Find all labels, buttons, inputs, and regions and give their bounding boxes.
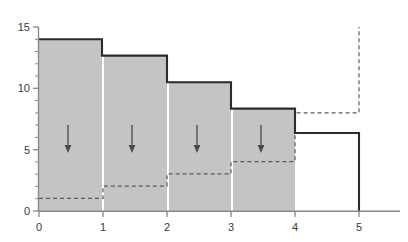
y-axis-major-ticks — [33, 27, 39, 211]
shaded-segment — [169, 82, 231, 211]
x-tick-label: 0 — [36, 221, 42, 233]
x-tick-label: 2 — [164, 221, 170, 233]
y-tick-label: 15 — [18, 21, 30, 33]
x-tick-label: 3 — [228, 221, 234, 233]
x-tick-label: 4 — [292, 221, 298, 233]
y-axis: 15 10 5 0 — [18, 21, 39, 217]
x-axis: 0 1 2 3 4 5 — [36, 211, 400, 233]
shaded-segment — [39, 39, 102, 211]
x-axis-ticks — [39, 211, 359, 217]
chart-figure: 15 10 5 0 0 1 2 3 4 5 — [0, 0, 408, 242]
x-tick-label: 5 — [356, 221, 362, 233]
y-tick-label: 10 — [18, 82, 30, 94]
shaded-segment — [104, 56, 167, 211]
x-tick-label: 1 — [100, 221, 106, 233]
step-function-chart: 15 10 5 0 0 1 2 3 4 5 — [0, 0, 408, 242]
y-tick-label: 0 — [24, 205, 30, 217]
y-tick-label: 5 — [24, 144, 30, 156]
shaded-segment — [233, 109, 295, 211]
